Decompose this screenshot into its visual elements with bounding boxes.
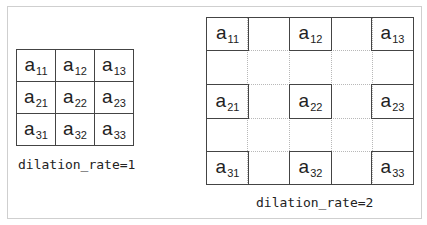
kernel-cell: a33	[371, 151, 414, 185]
kernel-cell: a23	[94, 81, 134, 114]
kernel-cell: a13	[94, 49, 134, 82]
kernel-cell: a11	[16, 49, 56, 82]
kernel-cell: a32	[289, 151, 332, 185]
kernel-cell: a12	[289, 17, 332, 51]
kernel-cell: a22	[289, 84, 332, 119]
kernel-cell: a22	[55, 81, 95, 114]
caption-dilation-2: dilation_rate=2	[256, 195, 373, 210]
kernel-cell: a11	[206, 17, 249, 51]
caption-dilation-1: dilation_rate=1	[18, 157, 135, 172]
kernel-cell: a32	[55, 113, 95, 146]
kernel-grid-dilation-2: a11 a12 a13 a21 a22 a23 a31 a32 a33	[206, 17, 414, 185]
kernel-cell: a31	[206, 151, 249, 185]
kernel-grid-dilation-1: a11 a12 a13 a21 a22 a23 a31 a32 a33	[16, 49, 134, 146]
kernel-cell: a13	[371, 17, 414, 51]
kernel-cell: a23	[371, 84, 414, 119]
kernel-cell: a12	[55, 49, 95, 82]
kernel-cell: a33	[94, 113, 134, 146]
kernel-cell: a21	[16, 81, 56, 114]
kernel-cell: a21	[206, 84, 249, 119]
kernel-cell: a31	[16, 113, 56, 146]
